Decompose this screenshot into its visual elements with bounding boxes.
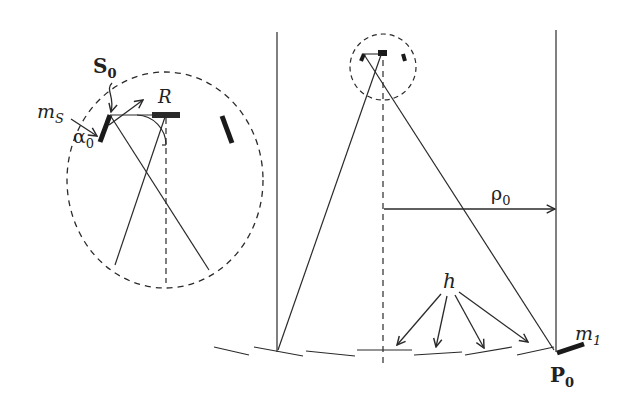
- r-label: R: [157, 86, 172, 107]
- segmented-mirror: [214, 347, 554, 356]
- h-arrows: [397, 292, 528, 348]
- ray-to-left: [278, 55, 381, 350]
- rho0-label: ρ0: [491, 182, 510, 208]
- inset-ray-2: [115, 117, 165, 265]
- ray-to-right: [365, 56, 554, 350]
- s0-pointer-arrow: [109, 83, 112, 112]
- ms-label: mS: [37, 100, 64, 126]
- m1-mirror: [557, 344, 584, 353]
- small-right-mirror: [403, 54, 405, 61]
- small-dashed-circle: [350, 34, 416, 100]
- small-ms-mirror: [361, 54, 364, 61]
- main-view: [214, 30, 584, 364]
- inset-right-mirror: [222, 116, 232, 143]
- h-label: h: [443, 269, 456, 293]
- alpha-pointer-arrow: [109, 100, 143, 125]
- inset-r-mirror: [152, 112, 180, 118]
- diagram-canvas: S0 R mS α0: [0, 0, 627, 410]
- s0-label: S0: [93, 54, 117, 81]
- alpha0-label: α0: [73, 125, 94, 151]
- small-r-mirror: [378, 50, 387, 56]
- inset-angle-arc: [137, 115, 166, 145]
- p0-label: P0: [550, 363, 574, 390]
- inset-ray-1: [110, 115, 209, 270]
- inset-ms-mirror: [100, 115, 110, 142]
